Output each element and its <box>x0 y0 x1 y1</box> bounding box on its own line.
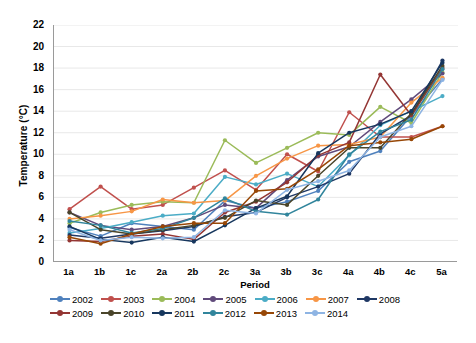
x-tick-1a: 1a <box>52 266 86 277</box>
point-2010-1a <box>67 210 71 214</box>
point-2004-3c <box>316 131 320 135</box>
series-lines <box>54 25 458 262</box>
legend-item-2011[interactable]: 2011 <box>152 306 194 320</box>
point-2012-3c <box>316 197 320 201</box>
point-2013-4b <box>378 140 382 144</box>
legend-item-2013[interactable]: 2013 <box>254 306 297 320</box>
point-2012-1a <box>67 219 71 223</box>
y-tick-10: 10 <box>20 148 44 159</box>
y-tick-22: 22 <box>20 19 44 30</box>
y-tick-20: 20 <box>20 41 44 52</box>
legend-label-2007: 2007 <box>328 294 349 305</box>
legend-label-2014: 2014 <box>327 308 348 319</box>
x-tick-1b: 1b <box>83 266 117 277</box>
legend-label-2012: 2012 <box>225 308 246 319</box>
legend-item-2005[interactable]: 2005 <box>203 292 246 306</box>
legend-item-2004[interactable]: 2004 <box>152 292 195 306</box>
point-2014-5a <box>440 78 444 82</box>
point-2010-2c <box>223 216 227 220</box>
point-2012-2b <box>192 216 196 220</box>
point-2010-1b <box>99 228 103 232</box>
legend-label-2003: 2003 <box>123 294 144 305</box>
x-tick-4a: 4a <box>331 266 365 277</box>
point-2004-3b <box>285 146 289 150</box>
point-2007-2b <box>192 201 196 205</box>
point-2013-4c <box>409 137 413 141</box>
point-2012-5a <box>440 67 444 71</box>
x-axis-title: Period <box>53 279 457 290</box>
legend-swatch-icon-2003 <box>101 294 121 304</box>
point-2011-2b <box>192 239 196 243</box>
legend-swatch-icon-2009 <box>50 308 70 318</box>
legend-item-2002[interactable]: 2002 <box>50 292 93 306</box>
legend-item-2014[interactable]: 2014 <box>305 306 348 320</box>
point-2010-3b <box>285 203 289 207</box>
point-2012-4c <box>409 118 413 122</box>
point-2007-4c <box>409 100 413 104</box>
legend-item-2010[interactable]: 2010 <box>101 306 144 320</box>
legend-item-2006[interactable]: 2006 <box>255 292 298 306</box>
x-tick-4b: 4b <box>362 266 396 277</box>
legend-item-2007[interactable]: 2007 <box>306 292 349 306</box>
point-2011-4b <box>378 122 382 126</box>
legend-swatch-icon-2006 <box>255 294 275 304</box>
point-2014-2c <box>223 208 227 212</box>
point-2007-1c <box>130 209 134 213</box>
series-2009 <box>67 66 444 244</box>
plot-area <box>53 25 457 262</box>
legend-swatch-icon-2012 <box>203 308 223 318</box>
legend-swatch-icon-2002 <box>50 294 70 304</box>
x-tick-3c: 3c <box>300 266 334 277</box>
point-2004-1c <box>130 203 134 207</box>
legend-item-2009[interactable]: 2009 <box>50 306 93 320</box>
legend-label-2006: 2006 <box>277 294 298 305</box>
point-2010-4b <box>378 146 382 150</box>
y-tick-14: 14 <box>20 105 44 116</box>
x-tick-2b: 2b <box>176 266 210 277</box>
point-2010-3a <box>254 198 258 202</box>
legend-item-2012[interactable]: 2012 <box>203 306 246 320</box>
y-tick-8: 8 <box>20 170 44 181</box>
point-2014-1c <box>130 235 134 239</box>
point-2011-5a <box>440 61 444 65</box>
y-tick-18: 18 <box>20 62 44 73</box>
point-2007-3c <box>316 144 320 148</box>
point-2011-4c <box>409 109 413 113</box>
point-2010-3c <box>316 174 320 178</box>
legend-row: 2002200320042005200620072008 <box>50 292 470 306</box>
x-tick-3a: 3a <box>238 266 272 277</box>
point-2014-2b <box>192 235 196 239</box>
point-2012-2c <box>223 196 227 200</box>
x-tick-2c: 2c <box>207 266 241 277</box>
y-tick-6: 6 <box>20 191 44 202</box>
legend-label-2010: 2010 <box>123 308 144 319</box>
point-2011-1c <box>130 241 134 245</box>
point-2006-2c <box>223 175 227 179</box>
legend-swatch-icon-2010 <box>101 308 121 318</box>
point-2013-2a <box>161 224 165 228</box>
point-2007-1b <box>99 214 103 218</box>
point-2007-3a <box>254 174 258 178</box>
legend-item-2008[interactable]: 2008 <box>357 292 400 306</box>
point-2014-4c <box>409 124 413 128</box>
point-2007-3b <box>285 156 289 160</box>
legend-item-2003[interactable]: 2003 <box>101 292 144 306</box>
point-2006-1c <box>130 220 134 224</box>
legend-swatch-icon-2005 <box>203 294 223 304</box>
point-2013-3c <box>316 167 320 171</box>
temperature-line-chart: Temperature (°C) 0246810121416182022 1a1… <box>0 0 476 343</box>
x-tick-5a: 5a <box>424 266 458 277</box>
point-2014-3b <box>285 188 289 192</box>
point-2011-4a <box>347 131 351 135</box>
point-2013-1a <box>67 235 71 239</box>
point-2003-2c <box>223 168 227 172</box>
point-2012-3b <box>285 213 289 217</box>
point-2011-3b <box>285 194 289 198</box>
point-2011-3c <box>316 151 320 155</box>
y-tick-4: 4 <box>20 213 44 224</box>
point-2014-2a <box>161 236 165 240</box>
legend-label-2008: 2008 <box>379 294 400 305</box>
point-2013-2b <box>192 221 196 225</box>
legend-row: 200920102011201220132014 <box>50 306 470 320</box>
series-2011 <box>67 61 444 245</box>
